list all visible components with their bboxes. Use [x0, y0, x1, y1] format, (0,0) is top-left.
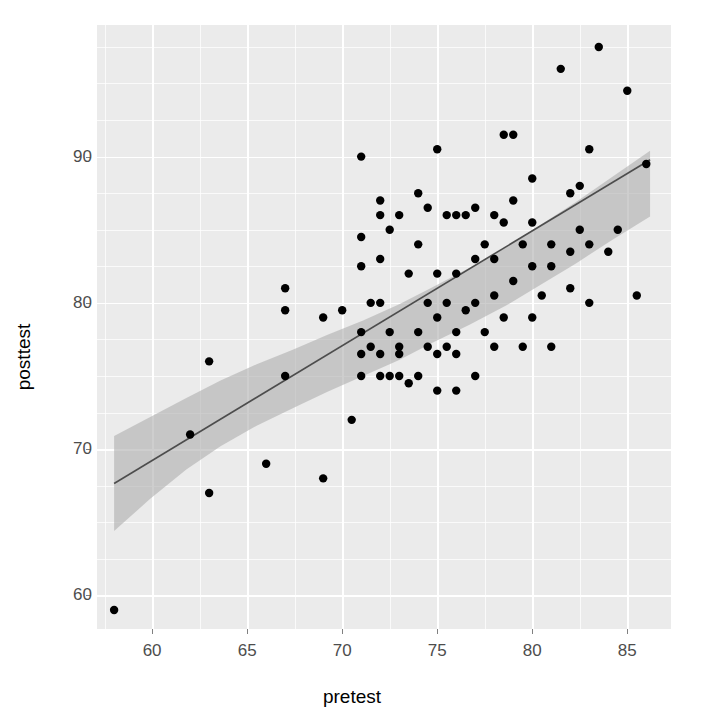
data-point — [386, 328, 394, 336]
data-point — [633, 291, 641, 299]
data-point — [585, 145, 593, 153]
data-point — [319, 313, 327, 321]
data-point — [566, 189, 574, 197]
y-tick-label: 60 — [73, 585, 92, 605]
x-tick-label: 80 — [523, 641, 542, 661]
data-point — [395, 211, 403, 219]
data-point — [376, 372, 384, 380]
data-point — [481, 240, 489, 248]
data-point — [281, 372, 289, 380]
data-point — [642, 160, 650, 168]
data-point — [462, 306, 470, 314]
data-point — [595, 43, 603, 51]
data-point — [490, 211, 498, 219]
data-point — [443, 211, 451, 219]
x-tick-mark — [627, 629, 628, 634]
data-point — [452, 269, 460, 277]
data-point — [528, 262, 536, 270]
data-point — [557, 65, 565, 73]
x-tick-label: 70 — [333, 641, 352, 661]
data-point — [566, 247, 574, 255]
data-point — [614, 226, 622, 234]
data-point — [585, 240, 593, 248]
data-point — [357, 233, 365, 241]
data-point — [262, 460, 270, 468]
data-point — [623, 87, 631, 95]
data-point — [433, 313, 441, 321]
data-point — [367, 343, 375, 351]
data-point — [376, 350, 384, 358]
data-point — [424, 343, 432, 351]
plot-panel — [97, 25, 671, 629]
data-point — [481, 328, 489, 336]
data-point — [386, 226, 394, 234]
data-point — [490, 291, 498, 299]
x-axis-title: pretest — [0, 686, 704, 708]
data-point — [443, 299, 451, 307]
data-point — [490, 343, 498, 351]
data-point — [585, 299, 593, 307]
data-point — [433, 386, 441, 394]
data-point — [452, 211, 460, 219]
data-point — [357, 262, 365, 270]
data-point — [414, 189, 422, 197]
data-point — [604, 247, 612, 255]
data-point — [414, 372, 422, 380]
data-point — [500, 313, 508, 321]
data-point — [452, 350, 460, 358]
data-point — [405, 379, 413, 387]
data-point — [281, 306, 289, 314]
data-point — [376, 299, 384, 307]
data-point — [424, 299, 432, 307]
scatter-plot-figure: 606570758085 60708090 pretest posttest — [0, 0, 704, 728]
x-tick-label: 65 — [238, 641, 257, 661]
data-point — [433, 350, 441, 358]
x-tick-mark — [342, 629, 343, 634]
y-axis-title: posttest — [13, 277, 35, 437]
data-point — [376, 196, 384, 204]
data-point — [462, 211, 470, 219]
data-point — [500, 218, 508, 226]
data-point — [519, 343, 527, 351]
data-point — [443, 343, 451, 351]
x-tick-mark — [152, 629, 153, 634]
data-point — [509, 277, 517, 285]
x-tick-mark — [532, 629, 533, 634]
data-point — [110, 606, 118, 614]
data-point — [528, 313, 536, 321]
data-point — [376, 211, 384, 219]
y-tick-label: 80 — [73, 293, 92, 313]
data-point — [395, 350, 403, 358]
x-tick-label: 75 — [428, 641, 447, 661]
x-tick-label: 85 — [618, 641, 637, 661]
data-point — [528, 174, 536, 182]
data-point — [547, 240, 555, 248]
data-point — [186, 430, 194, 438]
data-point — [414, 328, 422, 336]
data-point — [471, 204, 479, 212]
data-point — [528, 218, 536, 226]
data-point — [566, 284, 574, 292]
data-point — [452, 328, 460, 336]
data-point — [367, 299, 375, 307]
data-point — [395, 343, 403, 351]
data-point — [281, 284, 289, 292]
data-point — [433, 269, 441, 277]
data-point — [357, 372, 365, 380]
data-point — [519, 240, 527, 248]
data-point — [357, 152, 365, 160]
data-point — [205, 357, 213, 365]
data-point — [509, 130, 517, 138]
x-tick-mark — [247, 629, 248, 634]
data-point — [424, 204, 432, 212]
data-point — [576, 226, 584, 234]
data-point — [500, 130, 508, 138]
data-point — [347, 416, 355, 424]
data-point — [205, 489, 213, 497]
data-point — [319, 474, 327, 482]
data-point — [452, 386, 460, 394]
data-point — [471, 299, 479, 307]
data-point — [395, 372, 403, 380]
data-point — [414, 240, 422, 248]
data-point — [357, 350, 365, 358]
